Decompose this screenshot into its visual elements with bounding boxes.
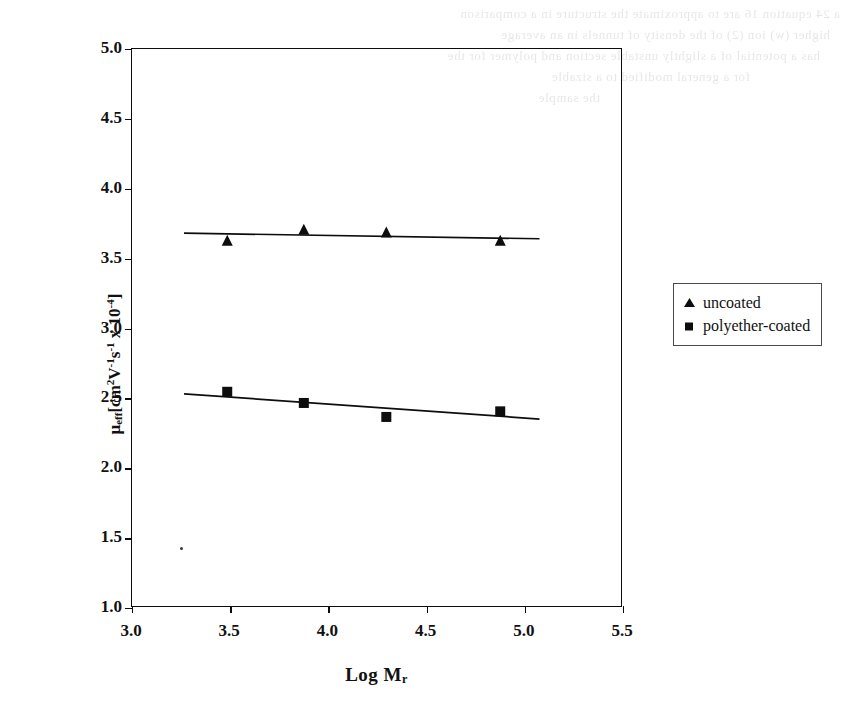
series-polyether-coated bbox=[184, 387, 539, 422]
chart-legend: uncoated polyether-coated bbox=[673, 283, 822, 346]
data-point-triangle bbox=[381, 226, 392, 237]
data-point-triangle bbox=[495, 235, 506, 246]
data-point-square bbox=[299, 398, 309, 408]
legend-item-uncoated: uncoated bbox=[683, 291, 810, 314]
chart-figure: μeff[cm2V-1s-1 x 10-4] 1.01.52.02.53.03.… bbox=[0, 0, 863, 727]
legend-label: polyether-coated bbox=[703, 317, 810, 335]
series-uncoated bbox=[184, 224, 539, 246]
data-point-triangle bbox=[222, 235, 233, 246]
legend-item-polyether-coated: polyether-coated bbox=[683, 314, 810, 337]
trend-line bbox=[184, 233, 539, 239]
x-axis-title-main: Log M bbox=[345, 664, 402, 685]
data-point-square bbox=[381, 412, 391, 422]
data-point-square bbox=[222, 387, 232, 397]
square-marker-icon bbox=[683, 319, 696, 332]
data-series-layer bbox=[0, 0, 863, 727]
data-point-square bbox=[495, 406, 505, 416]
trend-line bbox=[184, 394, 539, 419]
x-axis-title-sub: r bbox=[402, 672, 408, 686]
data-point-triangle bbox=[298, 224, 309, 235]
legend-label: uncoated bbox=[703, 294, 761, 312]
triangle-marker-icon bbox=[683, 296, 696, 309]
x-axis-title: Log Mr bbox=[131, 664, 622, 687]
scan-speck bbox=[180, 547, 183, 550]
